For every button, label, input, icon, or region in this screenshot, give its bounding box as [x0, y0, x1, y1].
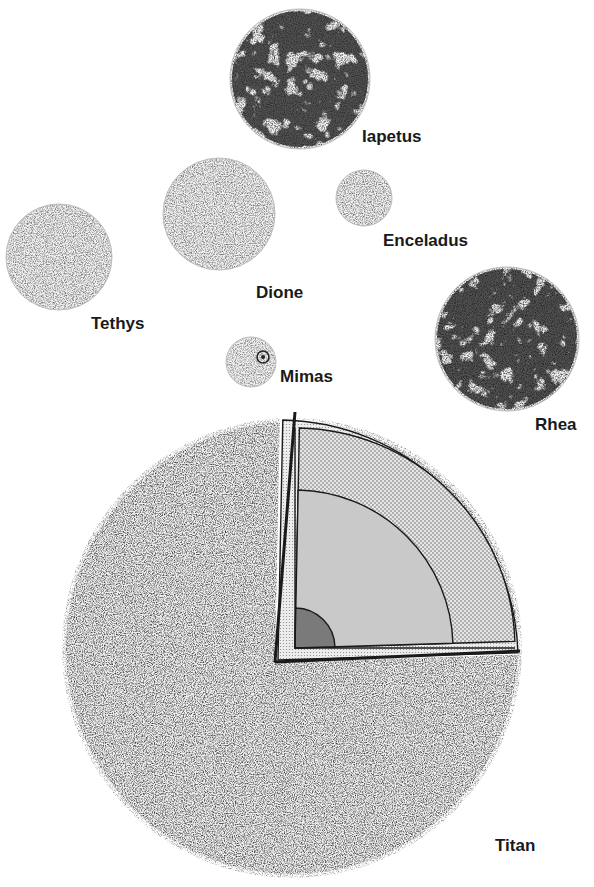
label-dione: Dione	[256, 283, 303, 303]
label-rhea: Rhea	[535, 415, 577, 435]
moon-enceladus	[336, 170, 392, 226]
label-mimas: Mimas	[280, 367, 333, 387]
moon-iapetus	[230, 9, 370, 149]
moon-stipple	[163, 158, 275, 270]
moon-tethys	[6, 204, 112, 310]
moon-titan	[62, 412, 522, 878]
mimas-crater-peak	[261, 355, 265, 359]
moon-stipple	[6, 204, 112, 310]
moon-surface-features	[232, 11, 368, 147]
label-titan: Titan	[495, 836, 535, 856]
label-tethys: Tethys	[91, 314, 145, 334]
moon-dione	[163, 158, 275, 270]
moon-mimas	[226, 337, 276, 387]
label-iapetus: Iapetus	[362, 127, 422, 147]
label-enceladus: Enceladus	[383, 231, 468, 251]
moon-surface-features	[437, 269, 577, 409]
saturn-moons-diagram: Iapetus Enceladus Dione Tethys Mimas Rhe…	[0, 0, 594, 887]
moon-rhea	[435, 267, 579, 411]
diagram-canvas	[0, 0, 594, 887]
